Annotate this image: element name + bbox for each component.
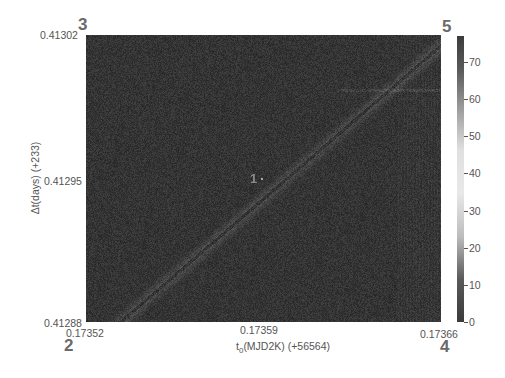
colorbar-tick-mark	[464, 136, 468, 137]
y-tick-top: 0.41302	[40, 30, 78, 41]
colorbar-tick-label: 10	[469, 280, 481, 291]
annotation-5: 5	[442, 18, 451, 35]
annotation-2: 2	[64, 337, 73, 354]
colorbar-tick-mark	[464, 62, 468, 63]
colorbar-tick-mark	[464, 99, 468, 100]
heatmap-canvas	[86, 35, 441, 322]
annotation-4: 4	[440, 338, 449, 355]
colorbar-tick-mark	[464, 211, 468, 212]
heatmap-plot-area	[86, 35, 441, 322]
colorbar-tick-label: 30	[469, 206, 481, 217]
colorbar-tick-label: 70	[469, 57, 481, 68]
colorbar-tick-label: 50	[469, 131, 481, 142]
colorbar-tick-label: 0	[469, 317, 475, 328]
annotation-1-marker	[261, 178, 263, 180]
colorbar-tick-mark	[464, 248, 468, 249]
y-axis-label: Δt(days) (+233)	[29, 133, 41, 223]
annotation-3: 3	[78, 16, 87, 33]
colorbar-tick-label: 40	[469, 168, 481, 179]
y-tick-middle: 0.41295	[44, 176, 82, 187]
colorbar-tick-mark	[464, 322, 468, 323]
colorbar	[457, 36, 464, 322]
x-tick-middle: 0.17359	[240, 325, 278, 336]
x-label-rest: (MJD2K) (+56564)	[243, 340, 330, 352]
colorbar-tick-label: 60	[469, 94, 481, 105]
colorbar-tick-mark	[464, 285, 468, 286]
x-tick-right: 0.17366	[420, 329, 458, 340]
annotation-1: 1	[250, 172, 257, 185]
x-axis-label: t0(MJD2K) (+56564)	[236, 340, 330, 355]
colorbar-tick-label: 20	[469, 243, 481, 254]
colorbar-tick-mark	[464, 173, 468, 174]
